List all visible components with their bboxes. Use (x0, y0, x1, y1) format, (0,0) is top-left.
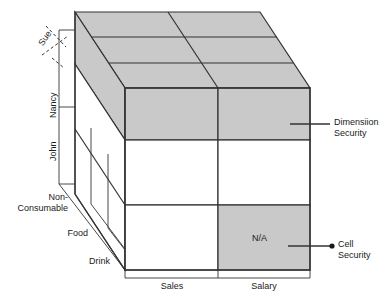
cell-nancy-salary (218, 140, 310, 205)
axis-label-nancy: Nancy (48, 83, 59, 127)
cube-graphic (0, 0, 390, 301)
axis-label-john: John (48, 132, 59, 170)
diagram-canvas: Sue Nancy John Non- Consumable Food Drin… (0, 0, 390, 301)
callout-dimension-security-line2: Security (334, 128, 367, 138)
callout-cell-security-line2: Security (338, 250, 371, 260)
axis-label-non-consumable-line1: Non- (48, 192, 68, 202)
cell-sue-salary (218, 88, 310, 140)
axis-label-non-consumable-line2: Consumable (17, 203, 68, 213)
sue-leader-dash-tail (52, 58, 64, 68)
callout-cell-security: Cell Security (338, 239, 371, 261)
cell-security-bullet-marker (329, 243, 334, 248)
callout-dimension-security-line1: Dimensiion (334, 117, 379, 127)
cell-na-label: N/A (252, 233, 267, 243)
axis-label-drink: Drink (76, 256, 110, 267)
axis-label-salary: Salary (238, 281, 290, 292)
axis-label-sales: Sales (146, 281, 198, 292)
callout-cell-security-line1: Cell (338, 239, 354, 249)
cell-sue-sales (125, 88, 218, 140)
cell-nancy-sales (125, 140, 218, 205)
cell-john-sales (125, 205, 218, 270)
axis-label-food: Food (52, 228, 88, 239)
axis-label-non-consumable: Non- Consumable (2, 192, 68, 213)
callout-dimension-security: Dimensiion Security (334, 117, 379, 139)
